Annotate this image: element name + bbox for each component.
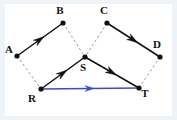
point-label-r: R (28, 92, 37, 104)
point-label-d: D (153, 38, 161, 50)
point-label-a: A (5, 43, 13, 55)
point-label-s: S (80, 61, 86, 73)
point-r (38, 86, 43, 91)
point-b (60, 20, 65, 25)
point-label-t: T (141, 87, 149, 99)
vector-diagram-figure: ABCDSRT (0, 0, 177, 120)
point-s (82, 54, 87, 59)
point-a (14, 53, 19, 58)
point-label-c: C (100, 4, 108, 16)
point-c (104, 20, 109, 25)
diagram-canvas: ABCDSRT (0, 0, 177, 120)
point-d (157, 54, 162, 59)
point-label-b: B (56, 4, 64, 16)
